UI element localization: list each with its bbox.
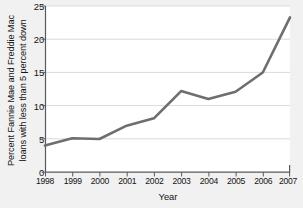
x-axis-label: Year [45,191,291,202]
x-tick-label: 2000 [91,176,109,186]
x-tick-label: 2002 [145,176,163,186]
x-tick-label: 2005 [227,176,245,186]
x-tick-label: 2004 [200,176,218,186]
x-axis-tick-labels: 1998 1999 2000 2001 2002 2003 2004 2005 … [0,176,303,188]
plot-background [45,6,290,172]
x-tick-label: 2003 [173,176,191,186]
x-tick-label: 1999 [64,176,82,186]
x-tick-label: 2007 [279,176,297,186]
x-tick-label: 1998 [36,176,54,186]
chart-figure: Percent Fannie Mae and Freddie Mac loans… [0,0,303,208]
x-tick-label: 2001 [118,176,136,186]
x-tick-label: 2006 [254,176,272,186]
